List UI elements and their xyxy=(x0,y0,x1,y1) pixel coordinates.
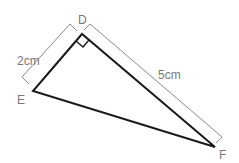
vertex-label-e: E xyxy=(17,93,25,107)
triangle-diagram: D E F 2cm 5cm xyxy=(0,0,239,163)
vertex-label-f: F xyxy=(219,148,226,162)
dimension-df xyxy=(84,24,222,143)
triangle-def xyxy=(33,34,215,147)
dimension-label-de: 2cm xyxy=(17,54,40,68)
right-angle-marker xyxy=(76,40,89,47)
vertex-label-d: D xyxy=(78,13,87,27)
dimension-label-df: 5cm xyxy=(158,68,181,82)
